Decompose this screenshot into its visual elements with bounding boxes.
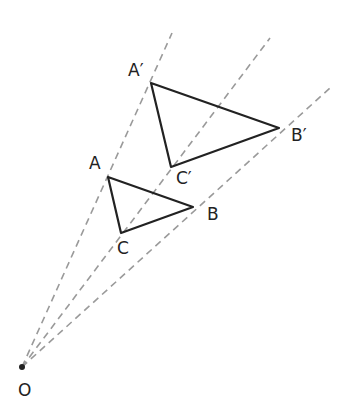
dilation-diagram: A′ B′ C′ A B C O	[0, 0, 340, 418]
diagram-svg	[0, 0, 340, 418]
triangle-a-prime-b-prime-c-prime	[151, 83, 279, 167]
label-c: C	[117, 240, 129, 257]
ray-through-c	[22, 38, 270, 367]
label-b: B	[207, 206, 219, 223]
label-c-prime: C′	[176, 170, 192, 187]
label-a: A	[89, 155, 101, 172]
center-point-o	[19, 364, 25, 370]
label-b-prime: B′	[291, 127, 307, 144]
label-a-prime: A′	[128, 62, 144, 79]
ray-through-a	[22, 33, 172, 367]
label-o: O	[18, 382, 31, 399]
ray-through-b	[22, 88, 330, 367]
